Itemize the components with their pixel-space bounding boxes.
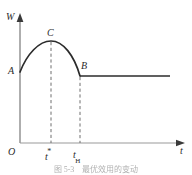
utility-curve-arc bbox=[20, 41, 80, 76]
x-axis bbox=[20, 140, 185, 146]
point-label-c: C bbox=[47, 28, 54, 38]
point-label-b: B bbox=[81, 61, 87, 71]
plot-canvas bbox=[0, 0, 192, 175]
origin-label: O bbox=[8, 147, 15, 157]
x-tick-t-h-subscript: H bbox=[75, 157, 80, 165]
point-label-a: A bbox=[8, 66, 14, 76]
x-tick-label-t-star: t* bbox=[45, 150, 52, 162]
y-axis bbox=[17, 13, 24, 143]
x-axis-label: t bbox=[180, 146, 183, 156]
y-axis-label: W bbox=[6, 12, 14, 22]
x-tick-t-star-mark: * bbox=[47, 147, 51, 156]
figure-container: W t O A C B t* tH 图 5-3 最优效用的变动 bbox=[0, 0, 192, 175]
y-axis-arrowhead bbox=[17, 13, 24, 22]
x-tick-label-t-h: tH bbox=[73, 150, 81, 163]
figure-caption: 图 5-3 最优效用的变动 bbox=[0, 165, 192, 175]
